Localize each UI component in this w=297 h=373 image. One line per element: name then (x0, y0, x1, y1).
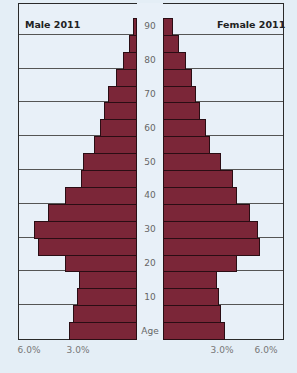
male-bar-65-69 (104, 102, 137, 120)
male-title: Male 2011 (25, 19, 80, 30)
male-bar-55-59 (94, 136, 137, 154)
tick-male-6: 6.0% (18, 345, 41, 355)
age-label-60: 60 (137, 122, 163, 134)
age-label-40: 40 (137, 189, 163, 201)
age-label-70: 70 (137, 88, 163, 100)
age-label-10: 10 (137, 291, 163, 303)
tick-female-3: 3.0% (211, 345, 234, 355)
female-bar-15-19 (163, 271, 217, 289)
male-bar-85-89 (129, 35, 137, 53)
female-bar-5-9 (163, 305, 221, 323)
age-label-90: 90 (137, 20, 163, 32)
male-bar-45-49 (81, 170, 137, 188)
age-label-80: 80 (137, 54, 163, 66)
female-bar-40-44 (163, 187, 237, 205)
female-bar-85-89 (163, 35, 179, 53)
male-bar-5-9 (73, 305, 137, 323)
female-bar-65-69 (163, 102, 200, 120)
male-bar-60-64 (100, 119, 137, 137)
male-bar-0-4 (69, 322, 137, 340)
age-label-20: 20 (137, 257, 163, 269)
male-bar-20-24 (65, 255, 137, 273)
female-bar-25-29 (163, 238, 260, 256)
tick-male-3: 3.0% (67, 345, 90, 355)
female-bar-75-79 (163, 69, 192, 87)
male-bar-80-84 (123, 52, 137, 70)
female-bar-45-49 (163, 170, 233, 188)
female-title: Female 2011 (217, 19, 285, 30)
tick-female-6: 6.0% (255, 345, 278, 355)
female-bar-10-14 (163, 288, 219, 306)
male-bar-35-39 (48, 204, 137, 222)
age-label-age: Age (137, 325, 163, 337)
female-bar-30-34 (163, 221, 258, 239)
female-bar-55-59 (163, 136, 210, 154)
female-bar-0-4 (163, 322, 225, 340)
male-bar-25-29 (38, 238, 137, 256)
female-bar-50-54 (163, 153, 221, 171)
female-bar-90+ (163, 18, 173, 36)
male-bar-15-19 (79, 271, 137, 289)
male-bar-70-74 (108, 86, 137, 104)
male-bar-50-54 (83, 153, 137, 171)
age-label-30: 30 (137, 223, 163, 235)
female-bar-70-74 (163, 86, 196, 104)
age-label-50: 50 (137, 156, 163, 168)
male-bar-30-34 (34, 221, 137, 239)
male-bar-40-44 (65, 187, 137, 205)
female-bar-60-64 (163, 119, 206, 137)
female-bar-20-24 (163, 255, 237, 273)
male-bar-75-79 (116, 69, 137, 87)
female-bar-35-39 (163, 204, 250, 222)
female-bar-80-84 (163, 52, 186, 70)
male-bar-10-14 (77, 288, 137, 306)
